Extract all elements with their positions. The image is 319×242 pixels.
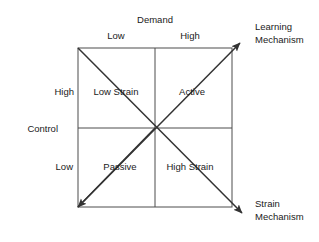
- quadrant-label-active: Active: [179, 86, 205, 98]
- learning-mechanism-label-line2: Mechanism: [255, 34, 304, 47]
- quadrant-label-high-strain: High Strain: [167, 161, 214, 173]
- quadrant-label-passive: Passive: [103, 161, 136, 173]
- learning-mechanism-label: Learning Mechanism: [255, 21, 304, 46]
- strain-mechanism-label-line2: Mechanism: [255, 211, 304, 224]
- quadrant-label-low-strain: Low Strain: [94, 86, 139, 98]
- strain-mechanism-arrow: [78, 48, 242, 213]
- demand-high-label: High: [180, 30, 200, 42]
- demand-axis-title: Demand: [137, 14, 173, 26]
- demand-low-label: Low: [107, 30, 124, 42]
- control-low-label: Low: [56, 161, 73, 173]
- strain-mechanism-label-line1: Strain: [255, 198, 304, 211]
- control-axis-title: Control: [27, 123, 58, 135]
- control-high-label: High: [54, 86, 74, 98]
- learning-mechanism-label-line1: Learning: [255, 21, 304, 34]
- diagram-canvas: Demand Low High Control High Low Low Str…: [0, 0, 319, 242]
- strain-mechanism-label: Strain Mechanism: [255, 198, 304, 223]
